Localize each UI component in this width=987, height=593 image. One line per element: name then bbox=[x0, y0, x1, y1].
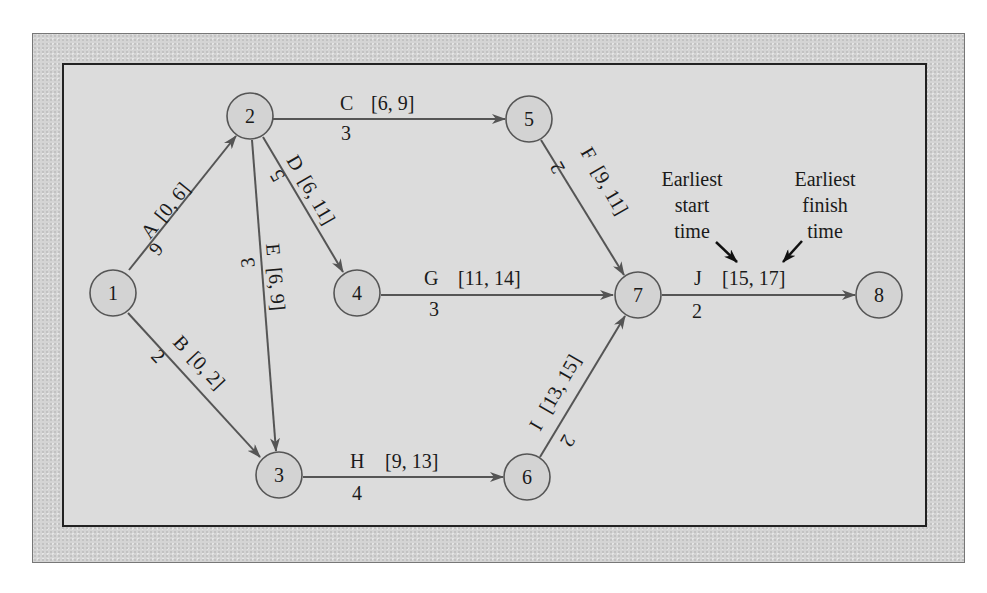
node-8: 8 bbox=[856, 272, 902, 318]
svg-text:E: E bbox=[262, 242, 285, 256]
svg-text:4: 4 bbox=[352, 282, 362, 304]
svg-text:time: time bbox=[807, 220, 843, 242]
svg-text:6: 6 bbox=[522, 466, 532, 488]
edge-J-activity: J bbox=[694, 267, 702, 289]
svg-text:time: time bbox=[674, 220, 710, 242]
edge-I-duration: 2 bbox=[556, 431, 580, 451]
svg-text:[9, 11]: [9, 11] bbox=[588, 162, 633, 219]
edge-A-duration: 6 bbox=[145, 239, 168, 261]
svg-text:start: start bbox=[675, 194, 710, 216]
svg-text:6: 6 bbox=[145, 239, 168, 261]
svg-text:Earliest: Earliest bbox=[794, 168, 856, 190]
edge-B bbox=[128, 313, 260, 457]
svg-text:B: B bbox=[169, 331, 194, 356]
edge-E-duration: 3 bbox=[236, 257, 259, 269]
edge-I-labels: I [13, 15] bbox=[524, 351, 585, 434]
edge-G-duration: 3 bbox=[429, 298, 439, 320]
node-3: 3 bbox=[256, 452, 302, 498]
edges bbox=[128, 119, 855, 477]
edge-H-interval: [9, 13] bbox=[385, 450, 438, 472]
node-2: 2 bbox=[227, 93, 273, 139]
svg-text:I: I bbox=[524, 417, 546, 434]
earliest-finish-annotation: Earliest finish time bbox=[794, 168, 856, 242]
node-7: 7 bbox=[615, 272, 661, 318]
svg-text:5: 5 bbox=[265, 166, 289, 186]
svg-text:[13, 15]: [13, 15] bbox=[534, 351, 585, 417]
earliest-start-annotation: Earliest start time bbox=[661, 168, 723, 242]
svg-text:3: 3 bbox=[274, 464, 284, 486]
node-1: 1 bbox=[90, 270, 136, 316]
node-5: 5 bbox=[506, 96, 552, 142]
svg-text:5: 5 bbox=[524, 108, 534, 130]
svg-text:7: 7 bbox=[633, 284, 643, 306]
edge-J-interval: [15, 17] bbox=[722, 267, 785, 289]
svg-text:2: 2 bbox=[245, 105, 255, 127]
network-diagram: 1 2 3 4 5 6 7 8 A [0, 6] 6 B [0, 2] 2 C … bbox=[0, 0, 987, 593]
edge-C-activity: C bbox=[340, 92, 353, 114]
svg-text:[0, 6]: [0, 6] bbox=[150, 178, 194, 226]
edge-H-activity: H bbox=[350, 450, 364, 472]
earliest-finish-arrow bbox=[783, 241, 802, 262]
edge-D-duration: 5 bbox=[265, 166, 289, 186]
svg-text:2: 2 bbox=[545, 158, 569, 178]
svg-text:finish: finish bbox=[802, 194, 848, 216]
edge-G-interval: [11, 14] bbox=[458, 267, 521, 289]
node-6: 6 bbox=[504, 454, 550, 500]
edge-G-activity: G bbox=[424, 267, 438, 289]
svg-text:A: A bbox=[136, 217, 163, 243]
svg-text:2: 2 bbox=[556, 431, 580, 451]
edge-C-duration: 3 bbox=[341, 122, 351, 144]
svg-text:3: 3 bbox=[236, 257, 259, 269]
svg-text:1: 1 bbox=[108, 282, 118, 304]
edge-E-labels: E [6, 9] bbox=[262, 242, 290, 311]
svg-text:F: F bbox=[577, 143, 602, 164]
edge-J-duration: 2 bbox=[692, 300, 702, 322]
svg-text:[6, 9]: [6, 9] bbox=[264, 266, 290, 311]
edge-H-duration: 4 bbox=[352, 482, 362, 504]
edge-B-labels: B [0, 2] bbox=[169, 331, 230, 394]
edge-F-duration: 2 bbox=[545, 158, 569, 178]
svg-text:8: 8 bbox=[874, 284, 884, 306]
node-4: 4 bbox=[334, 270, 380, 316]
svg-text:Earliest: Earliest bbox=[661, 168, 723, 190]
edge-A-labels: A [0, 6] bbox=[136, 178, 194, 243]
edge-C-interval: [6, 9] bbox=[371, 92, 414, 114]
svg-text:[0, 2]: [0, 2] bbox=[184, 347, 230, 394]
edge-F-labels: F [9, 11] bbox=[577, 143, 633, 219]
earliest-start-arrow bbox=[716, 242, 737, 262]
